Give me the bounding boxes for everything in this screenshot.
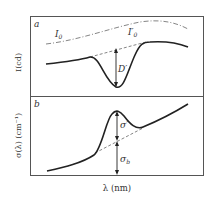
sigma-b-label: σb [120, 154, 130, 165]
arrow-head-down [115, 136, 119, 141]
I0prime-label: I′0 [127, 27, 138, 38]
absorption-curve [46, 42, 188, 88]
sigma-prime-label: σ′ [120, 120, 128, 130]
x-axis-label: λ (nm) [103, 183, 131, 193]
panel-b-ylabel: σ(λ) (cm⁻¹) [14, 113, 23, 158]
arrow-head-up [115, 141, 119, 146]
panel-b: b σ′ σb σ(λ) (cm⁻¹) [14, 99, 188, 175]
panel-a: a I0 I′0 D′ I(cd) [14, 19, 188, 87]
arrow-head-down [115, 170, 119, 175]
panel-b-label: b [34, 99, 40, 109]
I0-label: I0 [54, 29, 63, 40]
absorption-diagram: a I0 I′0 D′ I(cd) b σ′ σb σ(λ) (cm⁻¹) λ … [0, 0, 210, 197]
panel-a-ylabel: I(cd) [14, 53, 23, 72]
D-label: D′ [117, 64, 127, 74]
I0-curve [46, 21, 188, 44]
panel-a-label: a [34, 19, 39, 29]
